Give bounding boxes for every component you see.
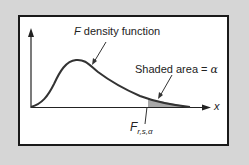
shaded-area-text: Shaded area bbox=[135, 63, 198, 75]
y-axis-arrow-icon bbox=[28, 28, 34, 37]
curve-pointer-line bbox=[94, 42, 106, 62]
critical-value-label: Fr,s,α bbox=[130, 120, 153, 136]
alpha-symbol: α bbox=[211, 63, 218, 76]
curve-label: F density function bbox=[74, 25, 160, 37]
x-axis-label: x bbox=[214, 100, 220, 112]
equals-sign: = bbox=[198, 63, 211, 75]
curve-label-rest: density function bbox=[81, 25, 161, 37]
x-axis-arrow-icon bbox=[202, 105, 211, 111]
shaded-pointer-line bbox=[160, 75, 172, 96]
curve-label-f: F bbox=[74, 25, 81, 37]
critical-value-subscript: r,s,α bbox=[137, 127, 152, 136]
shaded-area-label: Shaded area = α bbox=[135, 63, 218, 76]
